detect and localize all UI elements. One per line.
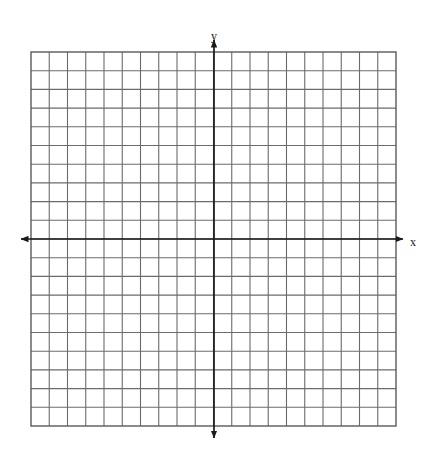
coordinate-plane: x y	[0, 0, 438, 465]
x-axis-label: x	[410, 235, 416, 249]
figure-background	[0, 0, 438, 465]
y-axis-label: y	[211, 29, 217, 43]
coordinate-grid-figure: x y	[0, 0, 438, 465]
